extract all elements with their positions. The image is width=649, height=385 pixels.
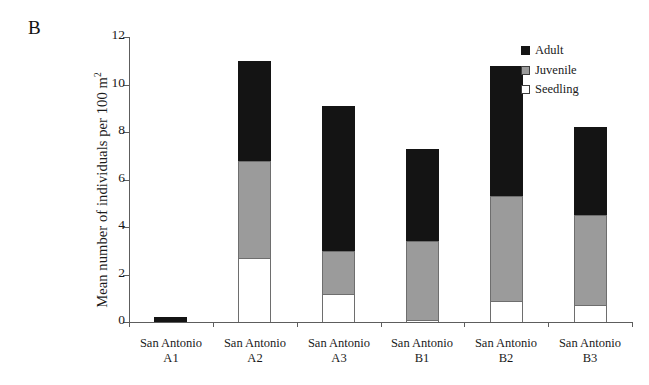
x-axis-label-line1: San Antonio (140, 336, 202, 350)
y-axis-tick-label: 12 (112, 28, 126, 42)
y-axis-tick-label: 4 (118, 218, 125, 232)
y-axis-title-text: Mean number of individuals per 100 m (94, 77, 110, 308)
x-axis-label: San AntonioA3 (291, 336, 387, 365)
bar-segment-juvenile[interactable] (490, 196, 523, 301)
legend-swatch-adult-icon (521, 46, 530, 55)
legend-item-seedling[interactable]: Seedling (521, 80, 579, 100)
x-axis-tick-mark (548, 322, 549, 327)
legend-label: Seedling (535, 80, 579, 100)
x-axis-tick-mark (464, 322, 465, 327)
bar-segment-adult[interactable] (322, 106, 355, 251)
bar-stack[interactable] (574, 127, 607, 322)
y-axis-tick-label: 6 (118, 171, 125, 185)
bar-segment-seedling[interactable] (322, 294, 355, 323)
legend-swatch-juvenile-icon (521, 66, 530, 75)
y-axis-title-superscript: 2 (93, 72, 103, 77)
bar-segment-juvenile[interactable] (406, 241, 439, 319)
figure-panel-b: B Mean number of individuals per 100 m2 … (0, 0, 649, 385)
bar-stack[interactable] (238, 61, 271, 322)
x-axis-label: San AntonioA1 (123, 336, 219, 365)
x-axis-label-line1: San Antonio (308, 336, 370, 350)
y-axis-tick-label: 10 (112, 76, 126, 90)
bar-segment-juvenile[interactable] (322, 251, 355, 294)
legend-label: Adult (535, 41, 563, 61)
y-axis-line (129, 37, 130, 322)
x-axis-tick-mark (297, 322, 298, 327)
bar-segment-seedling[interactable] (238, 258, 271, 322)
bar-stack[interactable] (406, 149, 439, 322)
legend-item-juvenile[interactable]: Juvenile (521, 61, 579, 81)
x-axis-label: San AntonioB2 (458, 336, 554, 365)
bar-segment-seedling[interactable] (406, 320, 439, 322)
bar-segment-adult[interactable] (238, 61, 271, 161)
x-axis-label-line2: A3 (291, 351, 387, 366)
bar-segment-juvenile[interactable] (238, 161, 271, 258)
bar-stack[interactable] (154, 317, 187, 322)
x-axis-tick-mark (129, 322, 130, 327)
bar-segment-seedling[interactable] (574, 305, 607, 322)
x-axis-label-line1: San Antonio (475, 336, 537, 350)
x-axis-tick-mark (213, 322, 214, 327)
bar-segment-adult[interactable] (490, 66, 523, 197)
y-axis-tick-label: 2 (118, 266, 125, 280)
panel-label: B (28, 18, 41, 37)
x-axis-tick-mark (632, 322, 633, 327)
legend: AdultJuvenileSeedling (521, 41, 579, 100)
x-axis-label-line2: A1 (123, 351, 219, 366)
y-axis-tick-label: 8 (118, 123, 125, 137)
bar-stack[interactable] (322, 106, 355, 322)
x-axis-label-line1: San Antonio (224, 336, 286, 350)
x-axis-tick-mark (381, 322, 382, 327)
y-axis-title: Mean number of individuals per 100 m2 (90, 40, 114, 340)
x-axis-label: San AntonioB1 (374, 336, 470, 365)
bar-segment-adult[interactable] (154, 317, 187, 322)
bar-segment-adult[interactable] (574, 127, 607, 215)
x-axis-label-line2: A2 (207, 351, 303, 366)
x-axis-label: San AntonioA2 (207, 336, 303, 365)
x-axis-label: San AntonioB3 (542, 336, 638, 365)
legend-label: Juvenile (535, 61, 577, 81)
x-axis-label-line2: B1 (374, 351, 470, 366)
bar-stack[interactable] (490, 66, 523, 323)
bar-segment-juvenile[interactable] (574, 215, 607, 305)
bar-segment-seedling[interactable] (490, 301, 523, 322)
x-axis-label-line1: San Antonio (391, 336, 453, 350)
legend-item-adult[interactable]: Adult (521, 41, 579, 61)
x-axis-label-line2: B3 (542, 351, 638, 366)
bar-segment-adult[interactable] (406, 149, 439, 242)
x-axis-label-line2: B2 (458, 351, 554, 366)
y-axis-tick-label: 0 (118, 313, 125, 327)
x-axis-label-line1: San Antonio (559, 336, 621, 350)
legend-swatch-seedling-icon (521, 85, 530, 94)
